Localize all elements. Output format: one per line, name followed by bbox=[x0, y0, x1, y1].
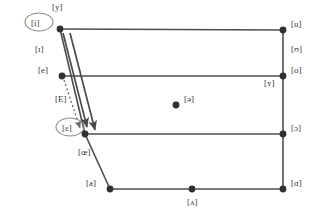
vowel-dot-a-back[interactable] bbox=[280, 186, 287, 193]
vowel-label-oe: [œ] bbox=[78, 148, 91, 157]
vowel-dot-a-front[interactable] bbox=[107, 186, 114, 193]
vowel-shift-arrows bbox=[63, 33, 95, 130]
vowel-label-i: [i] bbox=[31, 19, 40, 28]
vowel-label-schwa: [ə] bbox=[184, 95, 194, 104]
vowel-label-o: [o] bbox=[291, 66, 302, 75]
vowel-label-e: [e] bbox=[38, 66, 48, 75]
arrow-y-to-epsilon bbox=[70, 33, 95, 130]
vowel-label-a-back: [ɑ] bbox=[291, 179, 302, 188]
vowel-dot-turnedv[interactable] bbox=[189, 186, 196, 193]
vowel-label-openo: [ɔ] bbox=[291, 124, 301, 133]
vowel-label-turnedv: [ʌ] bbox=[187, 198, 198, 207]
vowel-label-small-y: [ʏ] bbox=[264, 79, 274, 88]
vowel-label-epsilon: [ɛ] bbox=[62, 124, 72, 133]
vowel-quadrilateral-chart: [i][y][u][ʊ][ɪ][e][o][ʏ][E][ə][ɛ][œ][ɔ][… bbox=[0, 0, 314, 222]
vowel-label-upsilon: [ʊ] bbox=[291, 45, 302, 54]
quadrilateral-edges bbox=[60, 29, 283, 189]
top-edge bbox=[60, 29, 283, 30]
vowel-dot-e[interactable] bbox=[59, 73, 66, 80]
vowel-dot-epsilon[interactable] bbox=[82, 131, 89, 138]
vowel-dot-i[interactable] bbox=[57, 26, 64, 33]
vowel-label-u: [u] bbox=[291, 20, 302, 29]
vowel-dot-o[interactable] bbox=[280, 73, 287, 80]
arrow-i-to-epsilon bbox=[63, 33, 87, 127]
vowel-dot-openo[interactable] bbox=[280, 131, 287, 138]
vowel-point-markers bbox=[57, 26, 287, 193]
vowel-label-y: [y] bbox=[52, 3, 63, 12]
vowel-label-small-i: [ɪ] bbox=[35, 45, 44, 54]
highlight-ellipses bbox=[25, 13, 84, 136]
vowel-dot-schwa[interactable] bbox=[173, 102, 180, 109]
vowel-label-a-front: [a] bbox=[86, 179, 96, 188]
chart-svg-canvas bbox=[0, 0, 314, 222]
vowel-label-cap-e: [E] bbox=[55, 95, 67, 104]
vowel-dot-u[interactable] bbox=[280, 27, 287, 34]
